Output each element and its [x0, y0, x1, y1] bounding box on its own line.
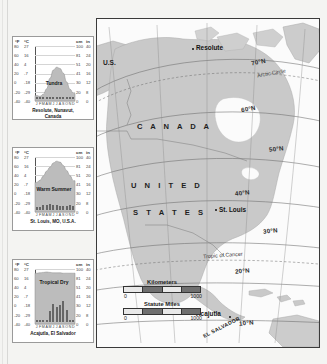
map-page: U.S. Resolute 70°N Arctic Circle 60°N C …	[0, 0, 327, 364]
precip-bar	[46, 320, 48, 322]
precip-bar	[66, 310, 68, 322]
month-label: D	[72, 102, 75, 106]
scale-seg	[163, 309, 182, 314]
precip-bar	[69, 205, 71, 210]
precip-bar	[66, 97, 68, 99]
climograph-body: °F°Ccmin80271004060168124404512020-74116…	[13, 260, 93, 342]
precip-bar	[39, 207, 41, 210]
country-label-united: U N I T E D	[131, 181, 203, 190]
precip-bar	[62, 206, 64, 211]
climograph-st-louis: °F°Ccmin80271004060168124404512020-74116…	[12, 147, 94, 231]
scale-bar-kilometers	[123, 286, 201, 293]
precip-bar	[36, 97, 38, 99]
precip-bar	[59, 97, 61, 99]
precip-bar	[49, 204, 51, 210]
scale-seg	[124, 287, 143, 292]
scale-endlabels-kilometers: 0 1000	[124, 293, 200, 300]
precip-bar	[59, 305, 61, 322]
precip-bar	[72, 97, 74, 99]
scale-endlabels-miles: 0 1000	[124, 315, 200, 322]
scale-min-miles: 0	[124, 315, 127, 321]
scale-max-kilometers: 1000	[190, 293, 202, 299]
page-margin-rule	[7, 0, 8, 364]
precip-bar	[46, 205, 48, 210]
climograph-caption-line2: Canada	[13, 114, 93, 120]
city-label-st-louis: St. Louis	[219, 206, 246, 213]
precip-bar	[72, 206, 74, 210]
climograph-body: °F°Ccmin80271004060168124404512020-74116…	[13, 148, 93, 230]
scale-bars: Kilometers 0 1000 Statute Miles 0 1000	[119, 279, 205, 322]
lat-label-20n: 20°N	[235, 266, 250, 274]
scale-seg	[143, 287, 162, 292]
precip-bar	[36, 320, 38, 322]
scale-seg	[182, 287, 200, 292]
precip-bar	[62, 301, 64, 322]
city-label-resolute: Resolute	[196, 44, 223, 51]
scale-seg	[143, 309, 162, 314]
label-alaska-us: U.S.	[103, 59, 116, 66]
city-dot-resolute	[192, 48, 194, 50]
precip-bar	[56, 97, 58, 99]
precip-bar	[39, 97, 41, 99]
climate-type-label: Tropical Dry	[13, 279, 95, 285]
precip-bar	[56, 307, 58, 322]
precip-bar	[69, 97, 71, 99]
precip-bar	[39, 320, 41, 322]
precip-bar	[42, 205, 44, 210]
climate-type-label: Tundra	[13, 80, 95, 86]
scale-max-miles: 1000	[190, 315, 202, 321]
country-label-canada: C A N A D A	[137, 122, 212, 131]
scale-seg	[182, 309, 200, 314]
climate-type-label: Warm Summer	[13, 186, 95, 192]
precip-bar	[66, 206, 68, 210]
map-frame: U.S. Resolute 70°N Arctic Circle 60°N C …	[96, 18, 320, 348]
month-label: D	[72, 325, 75, 329]
climograph-body: °F°Ccmin80271004060168124404512020-74116…	[13, 37, 93, 119]
precip-bar	[59, 206, 61, 210]
scale-bar-miles	[123, 308, 201, 315]
scale-title-kilometers: Kilometers	[119, 279, 205, 285]
precip-bar	[52, 304, 54, 322]
climograph-resolute: °F°Ccmin80271004060168124404512020-74116…	[12, 36, 94, 120]
precip-bar	[49, 97, 51, 99]
country-label-states: S T A T E S	[133, 208, 206, 217]
month-label: D	[72, 213, 75, 217]
precip-bar	[56, 205, 58, 210]
precip-bar	[62, 97, 64, 99]
precip-bar	[46, 97, 48, 99]
lat-label-10n: 10°N	[239, 318, 254, 326]
precip-bar	[69, 320, 71, 323]
page-margin-rule-outer	[2, 0, 3, 364]
city-dot-st-louis	[215, 209, 217, 211]
scale-seg	[163, 287, 182, 292]
scale-title-miles: Statute Miles	[119, 301, 205, 307]
scale-seg	[124, 309, 143, 314]
climograph-acajutla: °F°Ccmin80271004060168124404512020-74116…	[12, 259, 94, 343]
precip-bar	[42, 97, 44, 99]
precip-bar	[72, 320, 74, 322]
climograph-caption-line1: St. Louis, MO, U.S.A.	[13, 219, 93, 225]
climograph-caption-line1: Acajutla, El Salvador	[13, 331, 93, 337]
scale-min-kilometers: 0	[124, 293, 127, 299]
precip-bar	[52, 97, 54, 99]
precip-bar	[42, 320, 44, 322]
precip-bar	[52, 205, 54, 210]
precip-bar	[36, 207, 38, 210]
precip-bar	[49, 311, 51, 322]
